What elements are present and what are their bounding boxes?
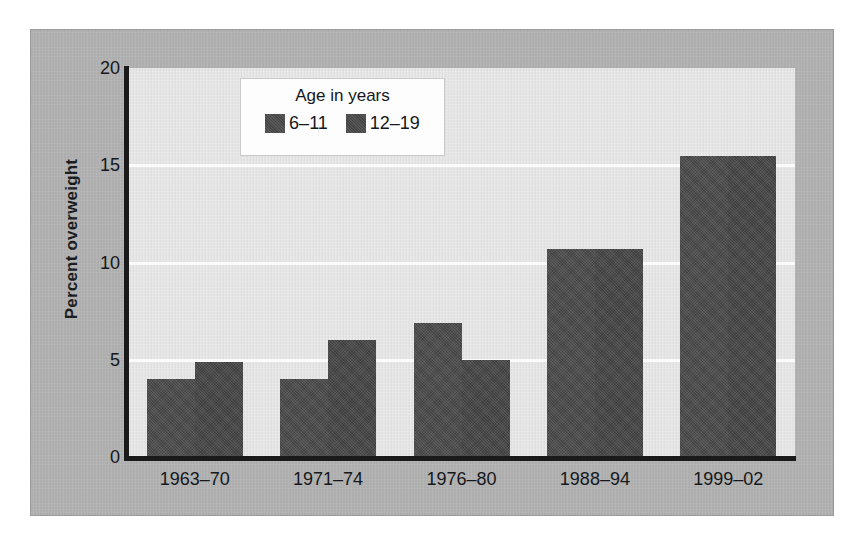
bar: [414, 323, 462, 457]
bar-group: [547, 68, 643, 457]
y-tick-label: 10: [60, 252, 120, 273]
chart-figure: Percent overweight Age in years 6–1112–1…: [0, 0, 860, 542]
bar: [728, 156, 776, 457]
x-tick-label: 1963–70: [128, 469, 261, 490]
y-tick-label: 15: [60, 155, 120, 176]
chart-panel: Percent overweight Age in years 6–1112–1…: [30, 29, 834, 516]
legend-label: 6–11: [289, 113, 328, 134]
bar: [195, 362, 243, 457]
y-tick-label: 5: [60, 349, 120, 370]
y-tick-label: 0: [60, 447, 120, 468]
legend-entries: 6–1112–19: [241, 113, 444, 134]
legend-swatch-icon: [265, 114, 285, 133]
legend-entry: 6–11: [265, 113, 328, 134]
bar: [595, 249, 643, 457]
x-tick-label: 1976–80: [395, 469, 528, 490]
legend-label: 12–19: [370, 113, 420, 134]
y-axis-line: [124, 66, 129, 461]
chart-legend: Age in years 6–1112–19: [240, 78, 445, 156]
legend-title: Age in years: [241, 86, 444, 106]
bar: [547, 249, 595, 457]
x-axis-line: [124, 456, 796, 461]
bar-group: [147, 68, 243, 457]
bar: [280, 379, 328, 457]
bar: [328, 340, 376, 457]
plot-area: [128, 68, 795, 457]
legend-entry: 12–19: [346, 113, 420, 134]
y-axis-title: Percent overweight: [62, 89, 82, 389]
x-tick-label: 1988–94: [528, 469, 661, 490]
x-tick-label: 1999–02: [662, 469, 795, 490]
legend-swatch-icon: [346, 114, 366, 133]
bar: [462, 360, 510, 457]
y-tick-label: 20: [60, 58, 120, 79]
x-tick-label: 1971–74: [261, 469, 394, 490]
bar: [680, 156, 728, 457]
bar: [147, 379, 195, 457]
bar-group: [680, 68, 776, 457]
